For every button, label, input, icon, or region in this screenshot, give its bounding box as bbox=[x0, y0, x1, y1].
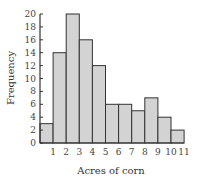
x-tick-label: 4 bbox=[90, 147, 96, 157]
x-axis-label: Acres of corn bbox=[76, 165, 145, 176]
y-tick-label: 0 bbox=[30, 138, 36, 148]
histogram-bar bbox=[171, 130, 184, 143]
histogram-bar bbox=[53, 53, 66, 143]
y-tick-label: 20 bbox=[25, 9, 37, 19]
histogram-bar bbox=[106, 104, 119, 143]
histogram-bar bbox=[66, 14, 79, 143]
y-tick-label: 14 bbox=[25, 48, 37, 58]
y-tick-label: 2 bbox=[30, 125, 36, 135]
histogram-bar bbox=[92, 66, 105, 143]
y-tick-label: 18 bbox=[25, 22, 37, 32]
y-tick-label: 6 bbox=[30, 99, 36, 109]
histogram-bar bbox=[40, 124, 53, 143]
histogram-bar bbox=[132, 111, 145, 143]
x-tick-label: 3 bbox=[76, 147, 82, 157]
y-tick-label: 10 bbox=[25, 74, 37, 84]
x-axis: 1234567891011 bbox=[40, 143, 190, 157]
histogram-chart: 02468101214161820 1234567891011 Frequenc… bbox=[0, 0, 202, 184]
x-tick-label: 7 bbox=[129, 147, 135, 157]
x-tick-label: 9 bbox=[155, 147, 161, 157]
y-axis: 02468101214161820 bbox=[25, 9, 43, 148]
histogram-bar bbox=[119, 104, 132, 143]
y-tick-label: 8 bbox=[30, 86, 36, 96]
y-tick-label: 12 bbox=[25, 61, 36, 71]
y-tick-label: 16 bbox=[25, 35, 37, 45]
x-tick-label: 10 bbox=[165, 147, 177, 157]
histogram-bar bbox=[145, 98, 158, 143]
histogram-bar bbox=[79, 40, 92, 143]
x-tick-label: 8 bbox=[142, 147, 148, 157]
x-tick-label: 5 bbox=[103, 147, 109, 157]
y-axis-label: Frequency bbox=[5, 51, 16, 105]
x-tick-label: 1 bbox=[50, 147, 56, 157]
bars bbox=[40, 14, 184, 143]
x-tick-label: 11 bbox=[178, 147, 189, 157]
x-tick-label: 2 bbox=[63, 147, 69, 157]
x-tick-label: 6 bbox=[116, 147, 122, 157]
histogram-bar bbox=[158, 117, 171, 143]
y-tick-label: 4 bbox=[30, 112, 36, 122]
